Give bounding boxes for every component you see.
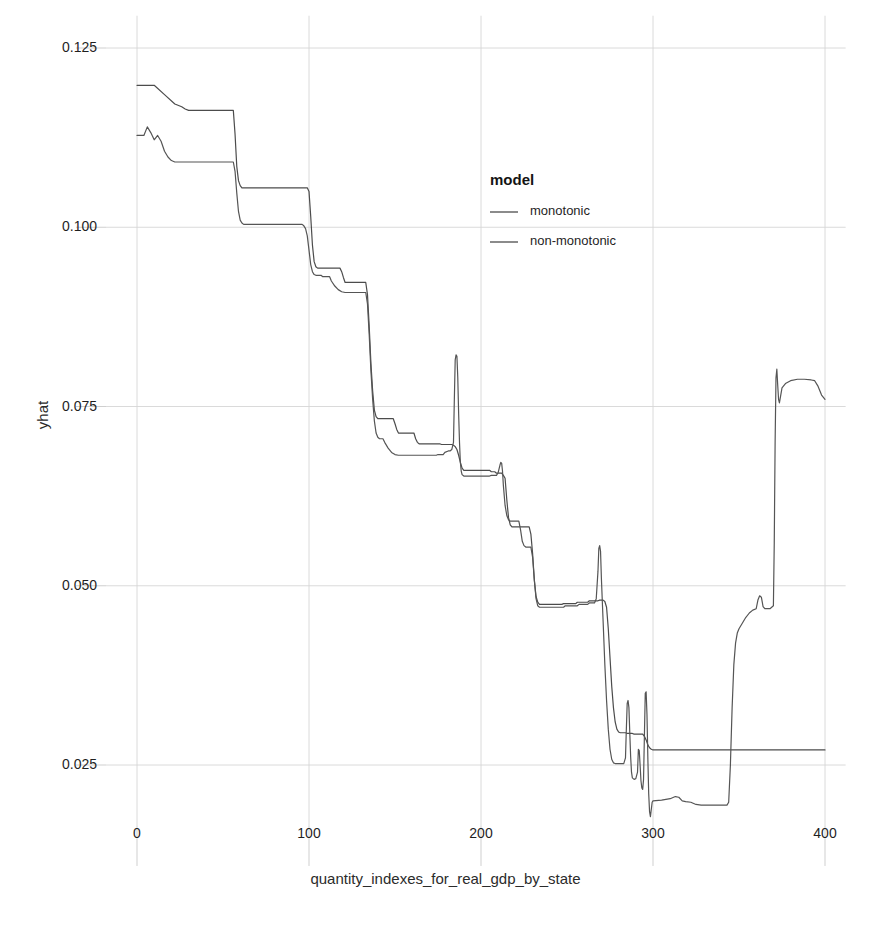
ytick-label-1: 0.050 — [27, 577, 97, 593]
xtick-label-4: 400 — [795, 825, 855, 841]
line-chart-canvas — [0, 0, 891, 925]
legend-title: model — [490, 171, 534, 188]
x-axis-title: quantity_indexes_for_real_gdp_by_state — [0, 870, 891, 887]
legend-item-monotonic[interactable]: monotonic — [530, 203, 590, 218]
xtick-label-1: 100 — [279, 825, 339, 841]
ytick-label-4: 0.125 — [27, 39, 97, 55]
xtick-label-3: 300 — [623, 825, 683, 841]
ytick-label-0: 0.025 — [27, 756, 97, 772]
y-axis-title-wrap: yhat — [22, 395, 62, 435]
tickmarks-group — [76, 48, 825, 866]
y-axis-title: yhat — [34, 401, 51, 429]
chart-figure: 0.025 0.050 0.075 0.100 0.125 0 100 200 … — [0, 0, 891, 925]
gridlines-group — [106, 16, 846, 826]
xtick-label-0: 0 — [107, 825, 167, 841]
ytick-label-3: 0.100 — [27, 218, 97, 234]
legend-item-non-monotonic[interactable]: non-monotonic — [530, 233, 616, 248]
xtick-label-2: 200 — [451, 825, 511, 841]
